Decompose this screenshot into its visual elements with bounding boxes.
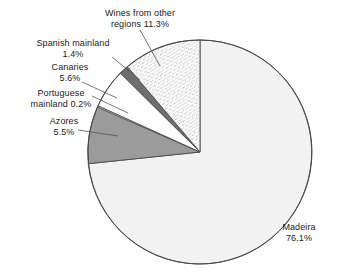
slice-label-portuguese-mainland: Portuguese mainland 0.2% (2, 88, 120, 110)
slice-label-azores: Azores 5.5% (18, 116, 110, 138)
slice-label-wines-other-regions: Wines from other regions 11.3% (84, 8, 196, 30)
slice-label-canaries: Canaries 5.6% (18, 62, 122, 84)
slice-label-spanish-mainland: Spanish mainland 1.4% (14, 38, 132, 60)
slice-label-madeira: Madeira 76.1% (264, 222, 334, 244)
pie-chart-figure: Wines from other regions 11.3% Spanish m… (0, 0, 340, 272)
